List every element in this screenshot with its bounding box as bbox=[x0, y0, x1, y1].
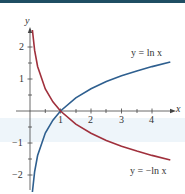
x-tick-1: 1 bbox=[58, 115, 63, 125]
y-tick-neg2: −2 bbox=[12, 170, 23, 180]
ln-curve-label: y = ln x bbox=[131, 48, 162, 58]
y-axis-label: y bbox=[25, 16, 29, 26]
y-tick-2: 2 bbox=[19, 42, 24, 52]
y-tick-1: 1 bbox=[19, 74, 24, 84]
x-axis-label: x bbox=[176, 104, 180, 114]
x-tick-4: 4 bbox=[149, 115, 154, 125]
x-axis bbox=[16, 109, 172, 114]
neg-ln-curve-label: y = −ln x bbox=[130, 166, 167, 176]
x-tick-2: 2 bbox=[88, 115, 93, 125]
y-tick-neg1: −1 bbox=[12, 138, 23, 148]
x-tick-3: 3 bbox=[119, 115, 124, 125]
y-axis-arrow-icon bbox=[28, 27, 32, 33]
